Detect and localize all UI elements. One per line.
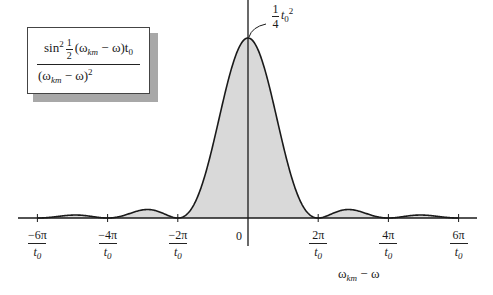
x-tick-label: −4πt0 [93, 229, 123, 261]
x-tick-label-zero: 0 [236, 229, 242, 244]
formula-denominator: (ωkm − ω)2 [28, 65, 149, 85]
formula-box: sin212(ωkm − ω)t0 (ωkm − ω)2 [27, 27, 150, 94]
formula-fraction: sin212(ωkm − ω)t0 (ωkm − ω)2 [28, 38, 149, 85]
x-tick-label: 2πt0 [303, 229, 333, 261]
formula-numerator: sin212(ωkm − ω)t0 [28, 38, 149, 64]
x-tick-label: 4πt0 [373, 229, 403, 261]
x-tick-label: −6πt0 [22, 229, 52, 261]
x-tick-label: −2πt0 [163, 229, 193, 261]
peak-leader-line [249, 24, 266, 37]
x-tick-label: 6πt0 [444, 229, 474, 261]
x-axis-label: ωkm − ω [338, 266, 379, 283]
peak-annotation: 14t02 [270, 3, 293, 30]
